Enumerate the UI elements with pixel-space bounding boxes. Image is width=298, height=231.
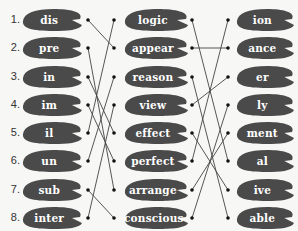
pad-label: un: [22, 150, 76, 172]
pad-label: perfect: [124, 150, 182, 172]
match-line: [88, 48, 114, 190]
pad-label: sub: [22, 179, 76, 201]
pad-label: ance: [236, 37, 289, 59]
item-number: 8.: [2, 211, 20, 223]
match-line: [88, 20, 114, 48]
pad-label: able: [236, 207, 289, 229]
prefix-pad-inter: inter: [22, 207, 86, 229]
match-line: [88, 105, 114, 161]
match-line: [88, 105, 114, 218]
match-line: [88, 20, 114, 133]
item-number: 1.: [2, 13, 20, 25]
suffixe-pad-er: er: [236, 66, 298, 88]
match-line: [88, 77, 114, 133]
connector-dot[interactable]: [112, 46, 116, 50]
pad-label: view: [124, 94, 182, 116]
pad-label: ion: [236, 9, 289, 31]
item-number: 5.: [2, 126, 20, 138]
root-pad-reason: reason: [124, 66, 192, 88]
root-pad-view: view: [124, 94, 192, 116]
pad-label: conscious: [124, 207, 182, 229]
prefix-pad-un: un: [22, 150, 86, 172]
connector-dot[interactable]: [86, 188, 90, 192]
pad-label: ive: [236, 179, 289, 201]
connector-dot[interactable]: [86, 216, 90, 220]
root-pad-conscious: conscious: [124, 207, 192, 229]
prefix-pad-il: il: [22, 122, 86, 144]
connector-dot[interactable]: [112, 103, 116, 107]
pad-label: im: [22, 94, 76, 116]
item-number: 3.: [2, 70, 20, 82]
pad-label: il: [22, 122, 76, 144]
connector-dot[interactable]: [112, 75, 116, 79]
pad-label: arrange: [124, 179, 182, 201]
match-line: [192, 77, 228, 218]
item-number: 2.: [2, 41, 20, 53]
connector-dot[interactable]: [226, 75, 230, 79]
prefix-pad-sub: sub: [22, 179, 86, 201]
connector-dot[interactable]: [112, 188, 116, 192]
pad-label: in: [22, 66, 76, 88]
suffixe-pad-ion: ion: [236, 9, 298, 31]
root-pad-arrange: arrange: [124, 179, 192, 201]
pad-label: pre: [22, 37, 76, 59]
root-pad-perfect: perfect: [124, 150, 192, 172]
suffixe-pad-al: al: [236, 150, 298, 172]
prefix-pad-pre: pre: [22, 37, 86, 59]
connector-dot[interactable]: [112, 18, 116, 22]
pad-label: ment: [236, 122, 289, 144]
connector-dot[interactable]: [226, 216, 230, 220]
item-number: 7.: [2, 183, 20, 195]
pad-label: dis: [22, 9, 76, 31]
connector-dot[interactable]: [226, 46, 230, 50]
connector-dot[interactable]: [112, 216, 116, 220]
match-line: [88, 190, 114, 218]
suffixe-pad-ment: ment: [236, 122, 298, 144]
suffixe-pad-ly: ly: [236, 94, 298, 116]
suffixe-pad-ive: ive: [236, 179, 298, 201]
connector-dot[interactable]: [226, 103, 230, 107]
prefix-pad-im: im: [22, 94, 86, 116]
connector-dot[interactable]: [86, 75, 90, 79]
pad-label: effect: [124, 122, 182, 144]
connector-dot[interactable]: [86, 131, 90, 135]
connector-dot[interactable]: [112, 131, 116, 135]
pad-label: al: [236, 150, 289, 172]
connector-dot[interactable]: [86, 159, 90, 163]
root-pad-effect: effect: [124, 122, 192, 144]
connector-dot[interactable]: [226, 18, 230, 22]
pad-label: er: [236, 66, 289, 88]
pad-label: inter: [22, 207, 76, 229]
suffixe-pad-ance: ance: [236, 37, 298, 59]
root-pad-appear: appear: [124, 37, 192, 59]
prefix-pad-dis: dis: [22, 9, 86, 31]
connector-dot[interactable]: [226, 131, 230, 135]
pad-label: logic: [124, 9, 182, 31]
connector-dot[interactable]: [112, 159, 116, 163]
prefix-pad-in: in: [22, 66, 86, 88]
root-pad-logic: logic: [124, 9, 192, 31]
pad-label: reason: [124, 66, 182, 88]
connector-dot[interactable]: [86, 18, 90, 22]
connector-dot[interactable]: [86, 103, 90, 107]
item-number: 4.: [2, 98, 20, 110]
pad-label: ly: [236, 94, 289, 116]
suffixe-pad-able: able: [236, 207, 298, 229]
pad-label: appear: [124, 37, 182, 59]
connector-dot[interactable]: [226, 188, 230, 192]
connector-dot[interactable]: [86, 46, 90, 50]
connector-dot[interactable]: [226, 159, 230, 163]
item-number: 6.: [2, 154, 20, 166]
